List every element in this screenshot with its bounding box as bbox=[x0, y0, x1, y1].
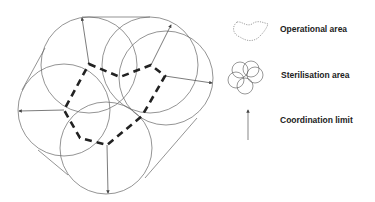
legend bbox=[228, 22, 268, 140]
operational-area-polygon bbox=[64, 64, 165, 145]
coordination-limit-arrow bbox=[107, 145, 108, 193]
coordination-limit-arrow bbox=[82, 18, 89, 64]
legend-label-operational-area: Operational area bbox=[280, 24, 347, 34]
sterilisation-circles bbox=[18, 17, 213, 194]
envelope-line-bottom-left bbox=[38, 150, 68, 175]
coordination-limit-arrow bbox=[19, 110, 64, 111]
envelope-line-left bbox=[22, 48, 45, 90]
legend-label-coordination-limit: Coordination limit bbox=[280, 115, 353, 125]
coordination-limits bbox=[19, 18, 212, 193]
legend-label-sterilisation-area: Sterilisation area bbox=[281, 70, 350, 80]
coverage-envelope bbox=[22, 17, 197, 178]
coordination-limit-arrow bbox=[165, 76, 212, 83]
operational-area-icon bbox=[234, 22, 268, 41]
envelope-line-bottom-right bbox=[145, 118, 197, 178]
sterilisation-area-icon bbox=[228, 61, 263, 94]
